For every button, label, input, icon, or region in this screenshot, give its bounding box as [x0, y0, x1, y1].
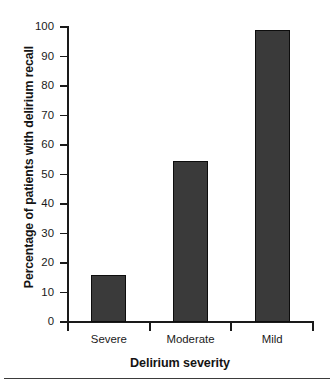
- y-tick-label: 90: [14, 51, 54, 62]
- y-tick-label: 20: [14, 257, 54, 268]
- y-tick-mark: [60, 233, 68, 235]
- y-tick-mark: [60, 144, 68, 146]
- y-tick-label: 40: [14, 198, 54, 209]
- bar-severe: [91, 275, 126, 322]
- y-tick-label: 0: [14, 316, 54, 327]
- y-tick-mark: [60, 26, 68, 28]
- y-tick-mark: [60, 292, 68, 294]
- y-tick-mark: [60, 262, 68, 264]
- y-tick-label: 80: [14, 80, 54, 91]
- y-tick-label: 50: [14, 169, 54, 180]
- y-tick-label: 10: [14, 287, 54, 298]
- y-tick-mark: [60, 203, 68, 205]
- bar-chart-figure: Percentage of patients with delirium rec…: [0, 0, 333, 390]
- footer-divider: [4, 378, 330, 379]
- x-axis-title: Delirium severity: [40, 356, 320, 370]
- y-tick-mark: [60, 174, 68, 176]
- bar-mild: [255, 30, 290, 322]
- x-tick-mark: [230, 323, 232, 331]
- y-tick-mark: [60, 85, 68, 87]
- x-tick-mark: [67, 323, 69, 331]
- y-tick-label: 60: [14, 139, 54, 150]
- y-tick-mark: [60, 115, 68, 117]
- bar-moderate: [173, 161, 208, 322]
- y-tick-label: 70: [14, 110, 54, 121]
- x-tick-mark: [312, 323, 314, 331]
- y-tick-mark: [60, 56, 68, 58]
- y-tick-label: 100: [14, 21, 54, 32]
- x-tick-mark: [149, 323, 151, 331]
- y-axis-title: Percentage of patients with delirium rec…: [22, 17, 36, 317]
- x-tick-label-mild: Mild: [224, 334, 320, 345]
- y-tick-label: 30: [14, 228, 54, 239]
